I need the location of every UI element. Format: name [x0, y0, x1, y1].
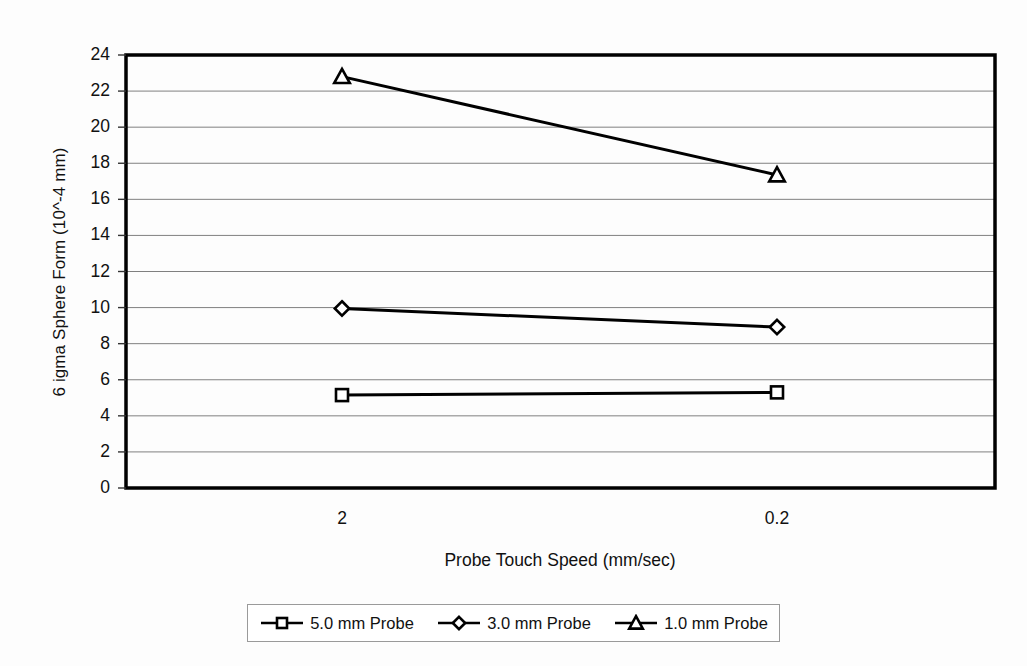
- legend-key-diamond-icon: [436, 614, 482, 632]
- data-point-marker-diamond: [453, 617, 465, 629]
- x-tick-label: 2: [337, 508, 347, 529]
- legend-item-1: 5.0 mm Probe: [257, 614, 416, 633]
- legend-item-2: 3.0 mm Probe: [434, 614, 593, 633]
- data-point-marker-square: [277, 618, 287, 628]
- legend-label: 3.0 mm Probe: [487, 614, 591, 633]
- legend-label: 1.0 mm Probe: [664, 614, 768, 633]
- legend-item-3: 1.0 mm Probe: [611, 614, 770, 633]
- legend-key-square-icon: [259, 614, 305, 632]
- data-point-marker-triangle: [629, 616, 643, 628]
- x-tick-label: 0.2: [765, 508, 789, 529]
- x-axis-title: Probe Touch Speed (mm/sec): [125, 550, 995, 571]
- chart-legend: 5.0 mm Probe3.0 mm Probe1.0 mm Probe: [247, 604, 780, 642]
- legend-label: 5.0 mm Probe: [310, 614, 414, 633]
- chart-figure: 6 igma Sphere Form (10^-4 mm) 2422201816…: [0, 0, 1027, 666]
- legend-key-triangle-icon: [613, 614, 659, 632]
